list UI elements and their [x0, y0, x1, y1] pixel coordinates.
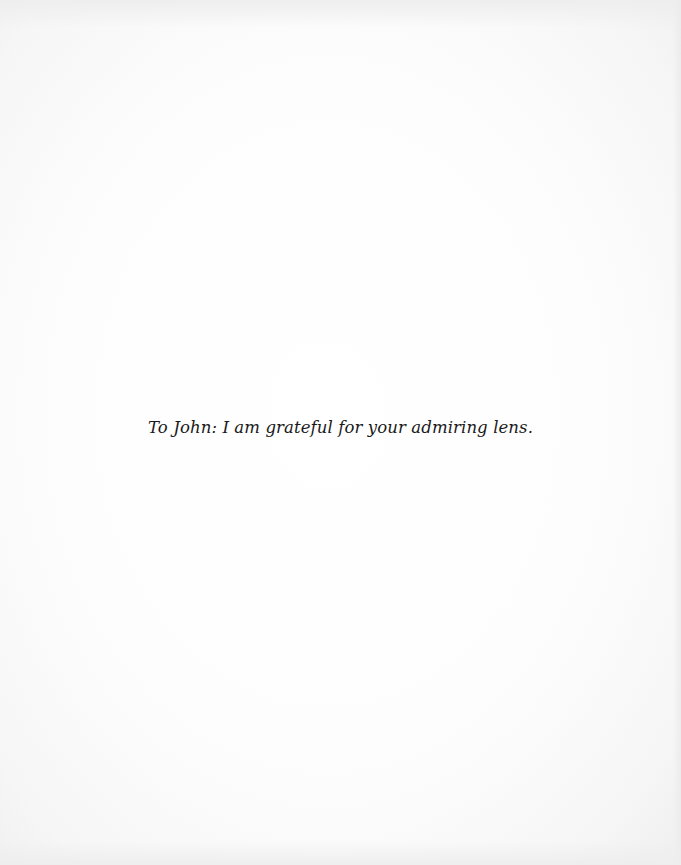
scan-shadow-bottom: [0, 841, 681, 865]
scan-shadow-top: [0, 0, 681, 28]
document-page: To John: I am grateful for your admiring…: [0, 0, 681, 865]
dedication-text: To John: I am grateful for your admiring…: [0, 416, 681, 440]
